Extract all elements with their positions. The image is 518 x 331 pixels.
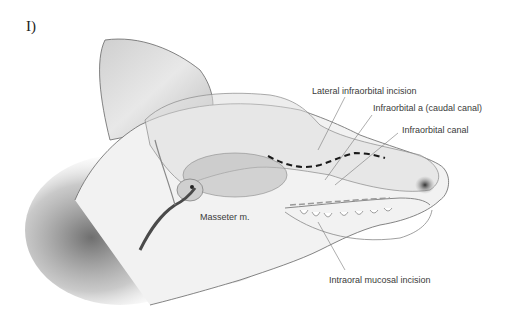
label-intraoral-mucosal-incision: Intraoral mucosal incision <box>329 275 431 285</box>
tmj-joint <box>177 179 203 201</box>
nose <box>415 176 435 194</box>
label-infraorbital-artery: Infraorbital a (caudal canal) <box>373 103 482 113</box>
dog-head-illustration <box>0 0 518 331</box>
label-infraorbital-canal: Infraorbital canal <box>402 125 469 135</box>
label-masseter: Masseter m. <box>200 212 250 222</box>
label-lateral-infraorbital-incision: Lateral infraorbital incision <box>312 86 417 96</box>
